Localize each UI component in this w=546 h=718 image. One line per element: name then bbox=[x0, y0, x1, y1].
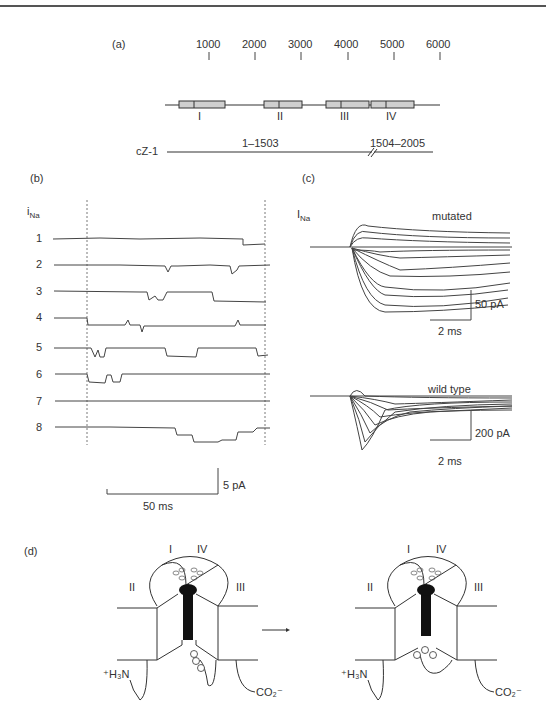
sweep-number: 6 bbox=[36, 368, 42, 380]
trace-title-mutated: mutated bbox=[432, 210, 472, 222]
scale-y-label: 200 pA bbox=[475, 427, 510, 439]
panel-b-label: (b) bbox=[30, 172, 43, 184]
panel-d-label: (d) bbox=[24, 545, 37, 557]
domain-label: I bbox=[198, 110, 201, 122]
segment-label: 1504–2005 bbox=[370, 137, 425, 149]
scale-x-label: 2 ms bbox=[438, 455, 462, 467]
segment-label: 1–1503 bbox=[242, 137, 279, 149]
figure-graphics bbox=[0, 0, 546, 718]
scale-y-label: 50 pA bbox=[475, 298, 504, 310]
sweep-number: 2 bbox=[36, 258, 42, 270]
domain-label: IV bbox=[436, 543, 446, 555]
panel-c-label: (c) bbox=[302, 172, 315, 184]
domain-label: II bbox=[277, 110, 283, 122]
scale-ticks bbox=[209, 52, 440, 60]
domain-label: IV bbox=[197, 543, 207, 555]
n-terminus-label: ⁺H₃N bbox=[103, 668, 129, 681]
wild-type-traces bbox=[310, 391, 512, 451]
y-axis-label: iNa bbox=[27, 205, 40, 220]
scale-x-label: 50 ms bbox=[143, 500, 173, 512]
domain-label: III bbox=[340, 110, 349, 122]
scale-x-label: 2 ms bbox=[438, 325, 462, 337]
sweep-number: 7 bbox=[36, 395, 42, 407]
domain-boxes bbox=[179, 101, 414, 108]
construct-label: cZ-1 bbox=[136, 145, 158, 157]
domain-label: II bbox=[367, 581, 373, 593]
pore-plug bbox=[183, 594, 193, 640]
scale-bar bbox=[107, 468, 218, 494]
sweep-number: 1 bbox=[36, 232, 42, 244]
sweep-number: 3 bbox=[36, 285, 42, 297]
y-axis-label: INa bbox=[297, 208, 310, 223]
sweep-number: 8 bbox=[36, 421, 42, 433]
domain-label: III bbox=[236, 581, 245, 593]
scale-y-label: 5 pA bbox=[223, 479, 246, 491]
n-terminus-label: ⁺H₃N bbox=[341, 668, 367, 681]
trace-title-wild-type: wild type bbox=[428, 383, 471, 395]
c-terminus-label: CO₂⁻ bbox=[256, 686, 283, 699]
domain-label: II bbox=[129, 581, 135, 593]
domain-label: III bbox=[474, 581, 483, 593]
stimulus-markers bbox=[87, 200, 265, 445]
domain-label: IV bbox=[386, 110, 396, 122]
sweep-number: 5 bbox=[36, 341, 42, 353]
sweep-number: 4 bbox=[36, 311, 42, 323]
domain-label: I bbox=[407, 543, 410, 555]
c-terminus-label: CO₂⁻ bbox=[495, 686, 522, 699]
domain-label: I bbox=[169, 543, 172, 555]
single-channel-traces bbox=[53, 238, 270, 442]
scale-bar bbox=[430, 410, 471, 440]
